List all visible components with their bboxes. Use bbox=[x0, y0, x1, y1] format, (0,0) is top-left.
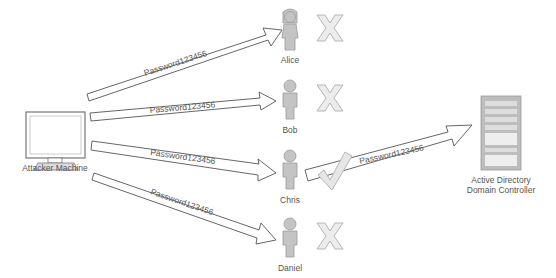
x-mark-icon bbox=[317, 15, 343, 41]
arrow-to-bob: Password123456 bbox=[90, 92, 276, 121]
arrow-to-domain-controller: Password123456 bbox=[305, 125, 472, 181]
computer-icon bbox=[26, 112, 85, 170]
server-rack-icon bbox=[481, 96, 521, 170]
check-mark-icon bbox=[318, 152, 352, 190]
user-label-bob: Bob bbox=[270, 125, 310, 135]
user-female-icon bbox=[282, 9, 298, 50]
dc-label-line1: Active Directory bbox=[461, 175, 541, 185]
attacker-label: Attacker Machine bbox=[12, 163, 98, 173]
user-icon bbox=[283, 150, 297, 189]
x-mark-icon bbox=[317, 85, 343, 111]
dc-label-line2: Domain Controller bbox=[461, 185, 541, 195]
user-icon bbox=[283, 80, 297, 119]
user-label-alice: Alice bbox=[270, 55, 310, 65]
arrow-to-daniel: Password123456 bbox=[92, 173, 276, 244]
x-mark-icon bbox=[317, 223, 343, 249]
diagram-canvas: Password123456 Password123456 Password12… bbox=[0, 0, 556, 278]
arrow-to-chris: Password123456 bbox=[91, 141, 276, 181]
svg-text:Password123456: Password123456 bbox=[358, 142, 425, 165]
arrow-to-alice: Password123456 bbox=[87, 28, 282, 101]
user-label-chris: Chris bbox=[270, 195, 310, 205]
user-label-daniel: Daniel bbox=[270, 263, 310, 273]
user-icon bbox=[283, 218, 297, 257]
